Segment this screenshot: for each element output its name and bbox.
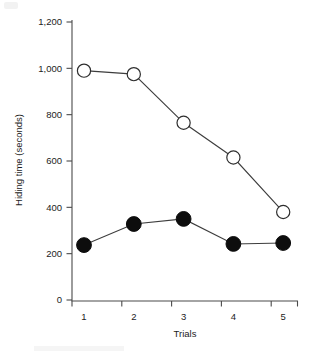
y-tick-label: 1,000 — [38, 63, 62, 74]
x-tick-label: 4 — [231, 311, 236, 322]
figure-container: 02004006008001,0001,200 12345 Trials Hid… — [0, 0, 312, 359]
data-point-open — [177, 116, 190, 129]
data-point-filled — [126, 217, 141, 232]
series-group — [77, 64, 291, 252]
series-line-open — [84, 71, 283, 212]
data-point-open — [277, 205, 290, 218]
data-point-open — [127, 68, 140, 81]
x-tick-label: 1 — [81, 311, 86, 322]
x-tick-label: 2 — [131, 311, 136, 322]
y-axis: 02004006008001,0001,200 — [38, 16, 72, 305]
x-axis: 12345 — [72, 301, 299, 322]
y-tick-label: 0 — [57, 294, 62, 305]
data-point-open — [227, 151, 240, 164]
y-tick-label: 800 — [46, 109, 62, 120]
line-chart: 02004006008001,0001,200 12345 Trials Hid… — [0, 0, 312, 359]
data-point-filled — [226, 237, 241, 252]
x-axis-ticks: 12345 — [72, 301, 298, 322]
data-point-open — [77, 64, 90, 77]
data-point-filled — [276, 236, 291, 251]
y-tick-label: 1,200 — [38, 16, 62, 27]
data-point-filled — [77, 238, 92, 253]
axis-titles: Trials Hiding time (seconds) — [13, 114, 197, 339]
y-tick-label: 400 — [46, 202, 62, 213]
y-axis-title: Hiding time (seconds) — [13, 114, 24, 206]
markers-filled — [77, 212, 291, 253]
data-point-filled — [176, 212, 191, 227]
y-axis-ticks: 02004006008001,0001,200 — [38, 16, 72, 305]
y-tick-label: 200 — [46, 248, 62, 259]
markers-open — [77, 64, 289, 219]
x-tick-label: 5 — [281, 311, 286, 322]
x-tick-label: 3 — [181, 311, 186, 322]
x-axis-title: Trials — [174, 328, 197, 339]
y-tick-label: 600 — [46, 155, 62, 166]
